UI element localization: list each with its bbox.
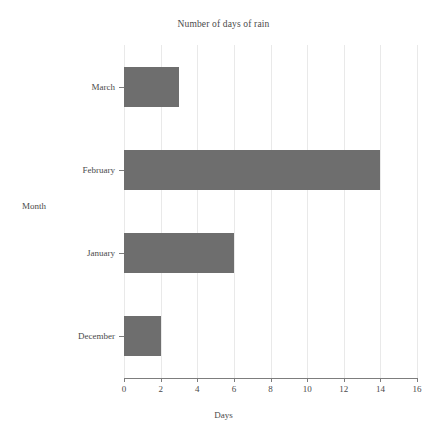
y-axis-tick-mark xyxy=(119,87,124,88)
gridline xyxy=(417,45,418,378)
x-axis-tick-label: 4 xyxy=(195,384,200,394)
y-axis-title: Month xyxy=(22,201,46,211)
x-axis-tick-mark xyxy=(344,378,345,382)
bar xyxy=(124,233,234,273)
plot-area xyxy=(124,45,417,378)
x-axis-tick-mark xyxy=(380,378,381,382)
x-axis-tick-mark xyxy=(161,378,162,382)
x-axis-tick-mark xyxy=(417,378,418,382)
bar xyxy=(124,67,179,107)
bars-layer xyxy=(124,45,417,378)
x-axis-tick-mark xyxy=(124,378,125,382)
x-axis-tick-label: 6 xyxy=(232,384,237,394)
category-label: January xyxy=(87,248,115,258)
y-axis-tick-mark xyxy=(119,253,124,254)
category-label: February xyxy=(83,165,116,175)
x-axis-tick-label: 16 xyxy=(413,384,422,394)
x-axis-tick-label: 12 xyxy=(339,384,348,394)
bar xyxy=(124,316,161,356)
category-axis-labels: MarchFebruaryJanuaryDecember xyxy=(0,45,124,378)
x-axis-tick-labels: 0246810121416 xyxy=(0,378,447,404)
x-axis-title: Days xyxy=(0,410,447,420)
x-axis-tick-label: 8 xyxy=(268,384,273,394)
y-axis-tick-mark xyxy=(119,336,124,337)
category-label: March xyxy=(92,82,116,92)
bar-chart-figure: Number of days of rain MarchFebruaryJanu… xyxy=(0,0,447,446)
bar xyxy=(124,150,380,190)
category-label: December xyxy=(78,331,115,341)
x-axis-tick-mark xyxy=(197,378,198,382)
y-axis-tick-mark xyxy=(119,170,124,171)
x-axis-tick-mark xyxy=(307,378,308,382)
chart-title: Number of days of rain xyxy=(0,19,447,29)
x-axis-tick-label: 10 xyxy=(303,384,312,394)
x-axis-tick-mark xyxy=(271,378,272,382)
x-axis-tick-mark xyxy=(234,378,235,382)
x-axis-tick-label: 0 xyxy=(122,384,127,394)
x-axis-tick-label: 14 xyxy=(376,384,385,394)
x-axis-tick-label: 2 xyxy=(158,384,163,394)
